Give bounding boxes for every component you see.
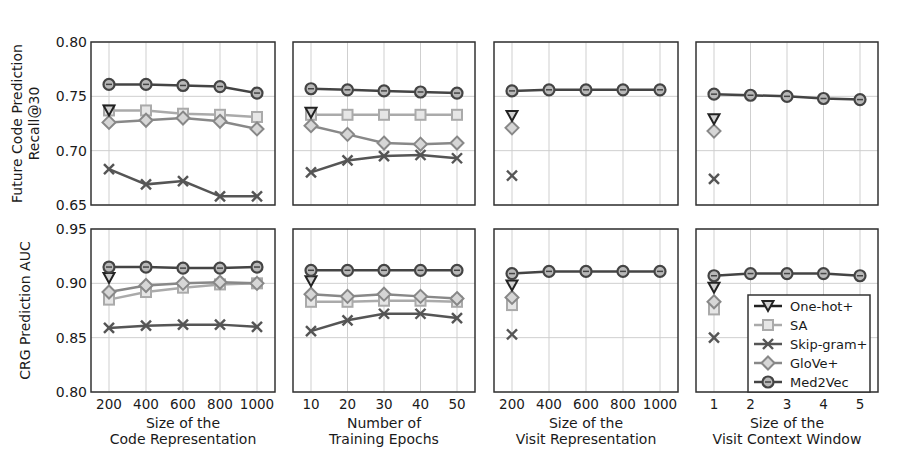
marker-square-icon <box>452 110 462 120</box>
x-tick-label: 10 <box>302 396 319 412</box>
panel-top-3 <box>494 42 678 205</box>
legend-label: One-hot+ <box>790 299 853 314</box>
x-axis-label: Code Representation <box>110 431 257 447</box>
y-tick-label: 0.65 <box>56 197 87 213</box>
marker-diamond-icon <box>708 125 721 138</box>
panel-top-2 <box>293 42 475 205</box>
x-tick-label: 800 <box>610 396 636 412</box>
x-tick-label: 3 <box>783 396 792 412</box>
marker-triangle-down-icon <box>507 281 518 291</box>
x-axis-label: Training Epochs <box>328 431 439 447</box>
x-axis-label: Visit Representation <box>516 431 657 447</box>
y-tick-label: 0.70 <box>56 143 87 159</box>
x-tick-label: 50 <box>448 396 465 412</box>
legend-marker-square-icon <box>763 320 773 330</box>
y-axis-label: Recall@30 <box>26 87 42 161</box>
marker-square-icon <box>252 112 262 122</box>
x-tick-label: 800 <box>207 396 233 412</box>
panel-bottom-2: 1020304050Number ofTraining Epochs <box>293 229 475 447</box>
marker-diamond-icon <box>451 137 464 150</box>
x-axis-label: Size of the <box>549 415 623 431</box>
x-tick-label: 4 <box>819 396 828 412</box>
x-axis-label: Number of <box>347 415 422 431</box>
x-tick-label: 200 <box>499 396 525 412</box>
legend-label: GloVe+ <box>790 356 838 371</box>
x-tick-label: 200 <box>96 396 122 412</box>
marker-triangle-down-icon <box>709 283 720 293</box>
marker-diamond-icon <box>103 116 116 129</box>
x-tick-label: 1 <box>710 396 719 412</box>
legend: One-hot+SASkip-gram+GloVe+Med2Vec <box>748 295 870 392</box>
marker-diamond-icon <box>506 121 519 134</box>
x-tick-label: 1000 <box>240 396 274 412</box>
marker-diamond-icon <box>251 122 264 135</box>
x-tick-label: 600 <box>170 396 196 412</box>
marker-square-icon <box>343 110 353 120</box>
marker-diamond-icon <box>378 137 391 150</box>
y-tick-label: 0.75 <box>56 88 87 104</box>
x-tick-label: 30 <box>375 396 392 412</box>
y-tick-label: 0.80 <box>56 34 87 50</box>
y-tick-label: 0.80 <box>56 384 87 400</box>
x-tick-label: 5 <box>856 396 865 412</box>
x-axis-label: Size of the <box>146 415 220 431</box>
panel-top-1: 0.650.700.750.80 <box>56 34 275 213</box>
marker-square-icon <box>416 110 426 120</box>
legend-item: GloVe+ <box>754 356 838 371</box>
y-axis-label: Future Code Prediction <box>9 44 25 203</box>
x-tick-label: 20 <box>339 396 356 412</box>
x-axis-label: Visit Context Window <box>713 431 862 447</box>
marker-diamond-icon <box>414 138 427 151</box>
panel-bottom-3: 2004006008001000Size of theVisit Represe… <box>494 229 678 447</box>
legend-label: Skip-gram+ <box>790 337 867 352</box>
x-tick-label: 1000 <box>643 396 677 412</box>
chart-grid: 0.650.700.750.800.800.850.900.9520040060… <box>0 0 905 470</box>
y-tick-label: 0.90 <box>56 275 87 291</box>
legend-label: Med2Vec <box>790 375 849 390</box>
marker-triangle-down-icon <box>104 273 115 283</box>
x-tick-label: 400 <box>536 396 562 412</box>
marker-triangle-down-icon <box>306 276 317 286</box>
y-axis-label: CRG Prediction AUC <box>17 241 33 380</box>
panel-top-4 <box>696 42 878 205</box>
panel-bottom-1: 0.800.850.900.952004006008001000Size of … <box>56 221 275 447</box>
x-tick-label: 400 <box>133 396 159 412</box>
marker-diamond-icon <box>305 119 318 132</box>
x-tick-label: 40 <box>412 396 429 412</box>
marker-square-icon <box>379 110 389 120</box>
figure: 0.650.700.750.800.800.850.900.9520040060… <box>0 0 905 470</box>
x-tick-label: 600 <box>573 396 599 412</box>
y-tick-label: 0.95 <box>56 221 87 237</box>
legend-item: Med2Vec <box>754 375 849 390</box>
x-axis-label: Size of the <box>750 415 824 431</box>
marker-triangle-down-icon <box>709 114 720 124</box>
legend-label: SA <box>790 318 807 333</box>
marker-diamond-icon <box>341 128 354 141</box>
marker-triangle-down-icon <box>507 111 518 121</box>
y-tick-label: 0.85 <box>56 330 87 346</box>
x-tick-label: 2 <box>746 396 755 412</box>
